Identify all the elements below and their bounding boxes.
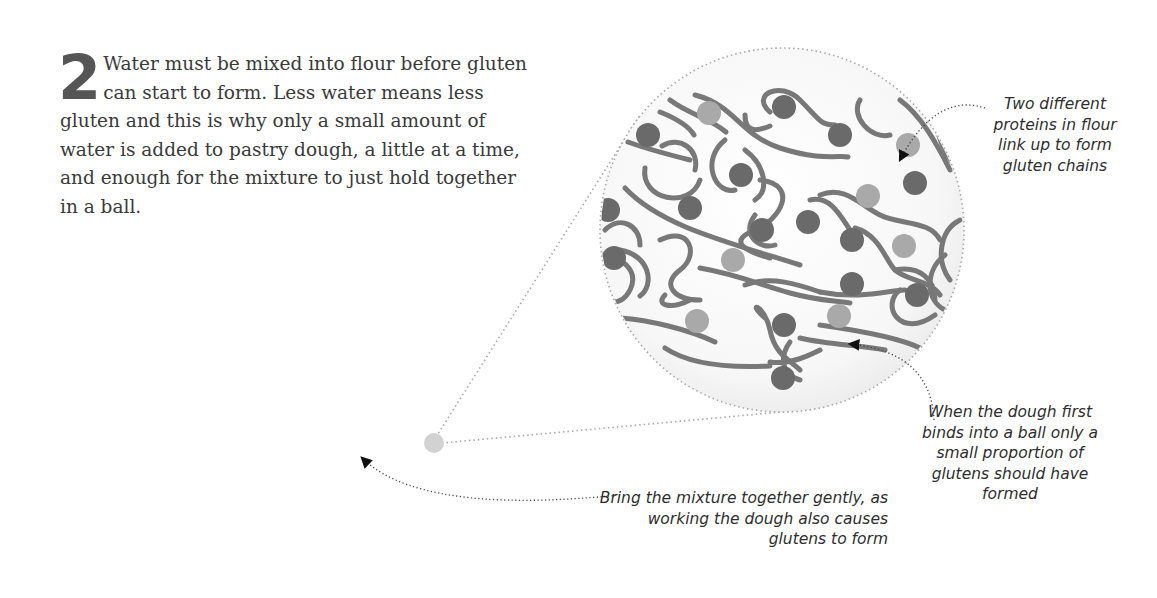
- dough-sample-dot: [424, 433, 444, 453]
- step-description: 2 Water must be mixed into flour before …: [60, 50, 530, 221]
- step-number: 2: [58, 53, 99, 103]
- leader-gentle: [362, 458, 620, 500]
- callout-gentle-mixing: Bring the mixture together gently, as wo…: [598, 488, 888, 550]
- magnified-view: [596, 48, 964, 412]
- callout-proteins: Two different proteins in flour link up …: [985, 94, 1125, 176]
- step-text: Water must be mixed into flour before gl…: [60, 53, 527, 217]
- callout-dough-ball: When the dough first binds into a ball o…: [920, 402, 1100, 505]
